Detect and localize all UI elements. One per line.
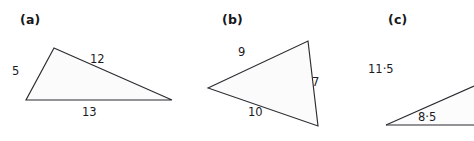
panel-b: (b) 9 7 10 xyxy=(190,0,340,141)
triangle-c-side-label-base: 8·5 xyxy=(418,110,436,124)
triangle-b-side-label-right: 7 xyxy=(312,75,319,89)
triangle-b-graphic xyxy=(190,0,340,141)
panel-a: (a) 5 12 13 xyxy=(0,0,190,141)
triangle-a-side-label-base: 13 xyxy=(82,105,97,119)
triangles-figure: (a) 5 12 13 (b) 9 7 10 (c) 11·5 8·5 xyxy=(0,0,474,141)
triangle-b-outline xyxy=(208,41,318,126)
triangle-b-side-label-upper-left: 9 xyxy=(238,45,245,59)
triangle-b-side-label-lower-left: 10 xyxy=(248,105,263,119)
triangle-c-side-label-hypotenuse: 11·5 xyxy=(368,62,394,76)
panel-c: (c) 11·5 8·5 xyxy=(340,0,474,141)
triangle-a-side-label-hypotenuse: 12 xyxy=(90,52,105,66)
triangle-a-graphic xyxy=(0,0,190,141)
triangle-c-graphic xyxy=(340,0,474,141)
triangle-a-side-label-left: 5 xyxy=(12,64,19,78)
